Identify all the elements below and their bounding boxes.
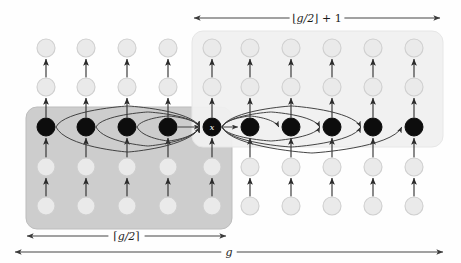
inactive-node xyxy=(364,78,382,96)
inactive-node xyxy=(241,158,259,176)
inactive-node xyxy=(323,197,341,215)
inactive-node xyxy=(118,78,136,96)
inactive-node xyxy=(37,78,55,96)
bottom-full-measure-label: g xyxy=(225,246,232,259)
inactive-node xyxy=(159,39,177,57)
inactive-node xyxy=(118,158,136,176)
active-node xyxy=(364,118,382,136)
inactive-node xyxy=(323,158,341,176)
inactive-node xyxy=(77,158,95,176)
inactive-node xyxy=(77,197,95,215)
bottom-left-measure-label: ⌈g/2⌉ xyxy=(113,230,139,243)
top-measure-label: ⌊g/2⌋ + 1 xyxy=(292,12,342,25)
active-node xyxy=(118,118,136,136)
inactive-node xyxy=(37,158,55,176)
diagram-canvas: x ⌊g/2⌋ + 1⌈g/2⌉g xyxy=(0,0,461,263)
inactive-node xyxy=(241,39,259,57)
inactive-node xyxy=(118,39,136,57)
active-node xyxy=(159,118,177,136)
inactive-node xyxy=(282,158,300,176)
inactive-node xyxy=(405,197,423,215)
diagram-svg: x ⌊g/2⌋ + 1⌈g/2⌉g xyxy=(0,0,461,263)
active-node xyxy=(37,118,55,136)
inactive-node xyxy=(77,39,95,57)
active-node xyxy=(282,118,300,136)
inactive-node xyxy=(282,197,300,215)
active-node xyxy=(241,118,259,136)
inactive-node xyxy=(159,158,177,176)
inactive-node xyxy=(37,39,55,57)
inactive-node xyxy=(364,158,382,176)
inactive-node xyxy=(159,197,177,215)
inactive-node xyxy=(118,197,136,215)
inactive-node xyxy=(203,158,221,176)
inactive-node xyxy=(282,39,300,57)
inactive-node xyxy=(405,78,423,96)
active-node xyxy=(323,118,341,136)
inactive-node xyxy=(364,197,382,215)
inactive-node xyxy=(241,78,259,96)
inactive-node xyxy=(77,78,95,96)
active-node xyxy=(77,118,95,136)
inactive-node xyxy=(405,158,423,176)
inactive-node xyxy=(203,197,221,215)
inactive-node xyxy=(159,78,177,96)
inactive-node xyxy=(323,39,341,57)
center-node-label: x xyxy=(210,123,215,132)
inactive-node xyxy=(203,39,221,57)
inactive-node xyxy=(282,78,300,96)
inactive-node xyxy=(364,39,382,57)
inactive-node xyxy=(405,39,423,57)
inactive-node xyxy=(37,197,55,215)
inactive-node xyxy=(241,197,259,215)
inactive-node xyxy=(323,78,341,96)
active-node xyxy=(405,118,423,136)
inactive-node xyxy=(203,78,221,96)
